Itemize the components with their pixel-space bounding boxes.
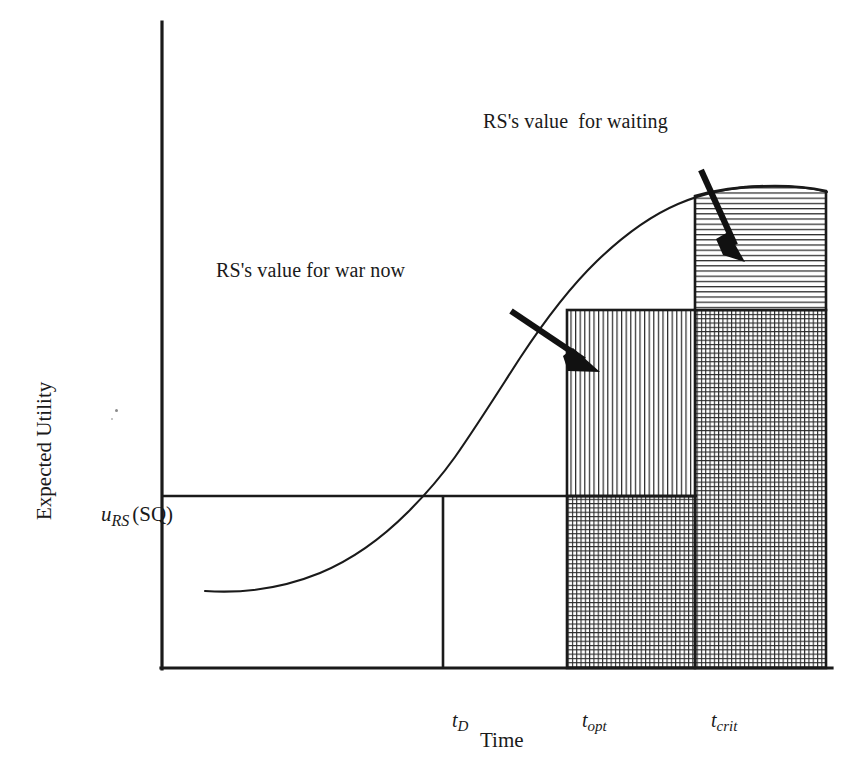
region-value-of-war-now [567,310,695,496]
tick-sub-t-opt: opt [588,718,607,734]
scan-speck [111,418,113,420]
tick-sub-t-crit: crit [717,718,738,734]
annotation-waiting-label: RS's value for waiting [483,110,668,133]
scan-speck [115,409,118,412]
y-axis-title: Expected Utility [32,382,57,520]
x-axis-title: Time [480,728,524,753]
x-tick-label-t-opt: topt [562,686,607,758]
value-label-subscript: RS [112,512,130,529]
x-tick-label-t-d: tD [432,686,468,758]
chart-canvas [0,0,854,782]
region-status-quo-baseline-left [567,496,695,668]
figure-root: RS's value for waiting RS's value for wa… [0,0,854,782]
value-label-u-rs-sq: uRS(SQ) [80,477,173,555]
tick-sub-t-d: D [458,718,469,734]
value-label-suffix: (SQ) [132,502,173,526]
annotation-war-now-label: RS's value for war now [216,259,405,282]
region-status-quo-baseline-right [695,310,826,668]
x-tick-label-t-crit: tcrit [691,686,737,758]
value-label-symbol: u [101,502,112,526]
